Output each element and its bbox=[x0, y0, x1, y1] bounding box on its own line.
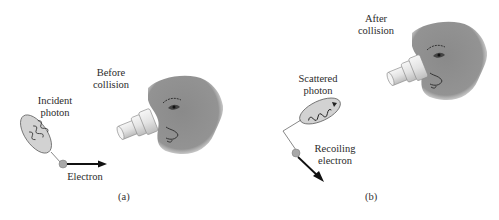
electron-label: Electron bbox=[60, 171, 110, 183]
recoiling-electron-label: Recoiling electron bbox=[310, 143, 360, 167]
panel-after-collision: After collision Scattered photon Recoili… bbox=[250, 0, 499, 220]
observer-face bbox=[148, 76, 223, 154]
panel-a-caption: (a) bbox=[118, 191, 130, 202]
photon-label-line2: photon bbox=[290, 85, 346, 97]
scattered-photon-label: Scattered photon bbox=[290, 73, 346, 97]
panel-b-caption: (b) bbox=[365, 191, 377, 202]
electron bbox=[59, 160, 107, 168]
before-collision-label: Before collision bbox=[86, 67, 136, 91]
electron-label-line2: electron bbox=[310, 155, 360, 167]
microscope bbox=[114, 108, 159, 145]
photon-label-line2: photon bbox=[30, 107, 80, 119]
incident-photon-label: Incident photon bbox=[30, 95, 80, 119]
scattered-photon bbox=[283, 93, 344, 150]
photon-label-line1: Incident bbox=[30, 95, 80, 107]
after-collision-label: After collision bbox=[351, 13, 401, 37]
electron-label-line1: Recoiling bbox=[310, 143, 360, 155]
panel-before-collision: Before collision Incident photon Electro… bbox=[0, 0, 249, 220]
state-label-line2: collision bbox=[86, 79, 136, 91]
state-label-line1: Before bbox=[86, 67, 136, 79]
photon-label-line1: Scattered bbox=[290, 73, 346, 85]
observer-face bbox=[412, 22, 487, 100]
state-label-line2: collision bbox=[351, 25, 401, 37]
state-label-line1: After bbox=[351, 13, 401, 25]
